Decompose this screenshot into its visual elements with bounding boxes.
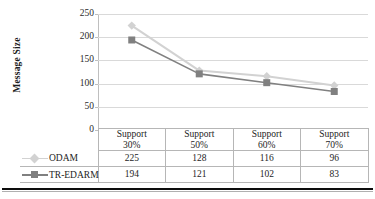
- data-point: [263, 79, 270, 86]
- table-corner-cell: [20, 129, 98, 151]
- legend-label: TR-EDARM: [49, 170, 99, 181]
- points-odam: [128, 21, 339, 89]
- legend-key-odam: [22, 154, 48, 164]
- table-header-line2: 70%: [301, 140, 368, 151]
- table-cell: 102: [233, 167, 301, 183]
- y-tick-label-100: 100: [54, 79, 94, 89]
- legend-key-tredarm: [22, 170, 48, 180]
- legend-item-odam[interactable]: ODAM: [20, 151, 98, 167]
- table-cell: 194: [98, 167, 166, 183]
- figure-message-size-chart: Message Size 250 200 150 100 50 0: [0, 0, 375, 199]
- table-cell: 225: [98, 151, 166, 167]
- table-header-line1: Support: [301, 129, 368, 140]
- table-header-line2: 60%: [234, 140, 301, 151]
- table-header-line2: 50%: [166, 140, 233, 151]
- data-point: [128, 36, 135, 43]
- table-cell: 128: [166, 151, 234, 167]
- table-header-line1: Support: [234, 129, 301, 140]
- table-header-line2: 30%: [99, 140, 166, 151]
- series-lines: [98, 14, 368, 130]
- y-tick-label-200: 200: [54, 32, 94, 42]
- table-header-cell: Support 30%: [98, 129, 166, 151]
- data-point: [263, 72, 271, 80]
- y-tick-label-250: 250: [54, 9, 94, 19]
- table-cell: 83: [301, 167, 369, 183]
- y-axis-title: Message Size: [12, 10, 22, 120]
- table-row: TR-EDARM 194 121 102 83: [20, 167, 368, 183]
- table-header-cell: Support 60%: [233, 129, 301, 151]
- table-header-row: Support 30% Support 50% Support 60% Supp…: [20, 129, 368, 151]
- legend-label: ODAM: [49, 153, 78, 164]
- table-cell: 96: [301, 151, 369, 167]
- table-header-line1: Support: [99, 129, 166, 140]
- plot-area: 250 200 150 100 50 0: [98, 14, 368, 130]
- line-tredarm: [132, 40, 335, 92]
- table-header-line1: Support: [166, 129, 233, 140]
- y-tick-label-50: 50: [54, 102, 94, 112]
- table-header-cell: Support 50%: [166, 129, 234, 151]
- table-cell: 116: [233, 151, 301, 167]
- table-cell: 121: [166, 167, 234, 183]
- data-point: [196, 70, 203, 77]
- table-header-cell: Support 70%: [301, 129, 369, 151]
- table-row: ODAM 225 128 116 96: [20, 151, 368, 167]
- page-separator-rule-shadow: [2, 191, 373, 192]
- data-point: [331, 88, 338, 95]
- data-table: Support 30% Support 50% Support 60% Supp…: [20, 128, 369, 183]
- legend-item-tredarm[interactable]: TR-EDARM: [20, 167, 98, 183]
- y-tick-label-150: 150: [54, 55, 94, 65]
